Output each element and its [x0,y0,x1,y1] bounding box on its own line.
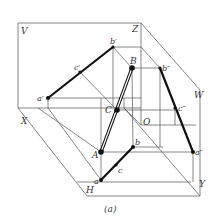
label-origin: O [143,117,151,127]
point-C [114,107,120,113]
label-y-axis: Y [199,179,206,189]
label-a-top: a [94,177,99,186]
label-x-axis: X [20,116,28,126]
label-b-prime: b′ [110,37,117,46]
point-a-prime [46,96,50,100]
label-A: A [91,150,99,160]
label-c-prime: c′ [74,63,80,72]
label-B: B [129,56,137,66]
three-view-projection-diagram: V Z W X O H Y a′ c′ b′ B C A b″ c″ a″ a … [0,0,223,224]
label-b-top: b [135,138,140,147]
label-C: C [105,105,112,115]
projection-segments [48,47,193,180]
point-a-top [99,178,103,182]
point-B [129,65,135,71]
figure-caption: (a) [104,204,117,214]
label-c-top: c [118,166,123,175]
label-z-axis: Z [131,24,139,34]
label-v-plane: V [21,26,29,36]
label-c-double-prime: c″ [178,104,185,113]
label-a-prime: a′ [37,94,44,103]
points [46,45,195,182]
point-A [98,149,104,155]
w-plane-border [141,23,200,196]
label-w-plane: W [194,90,204,100]
point-c-double-prime [173,106,176,109]
label-b-double-prime: b″ [162,64,170,73]
label-h-plane: H [85,185,94,195]
label-a-double-prime: a″ [195,148,203,157]
